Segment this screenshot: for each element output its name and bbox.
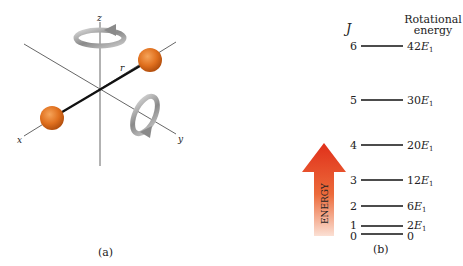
z-axis-label: z: [97, 13, 102, 24]
j-value: 0: [350, 231, 357, 242]
atom-right: [138, 48, 162, 72]
energy-arrow-label: ENERGY: [320, 182, 330, 224]
j-value: 5: [350, 95, 357, 106]
j-value: 6: [350, 41, 357, 52]
bond-length-label: r: [120, 63, 124, 74]
j-value: 3: [350, 175, 357, 186]
energy-value: 0: [407, 231, 414, 246]
x-axis-label: x: [17, 135, 22, 146]
energy-level-lines: [361, 46, 403, 234]
energy-value: 42E1: [407, 41, 434, 56]
energy-value: 30E1: [407, 95, 434, 110]
j-value: 2: [350, 201, 357, 212]
j-header: J: [346, 23, 351, 34]
energy-header: Rotational energy: [403, 14, 463, 36]
caption-a: (a): [98, 247, 113, 258]
y-axis-label: y: [178, 134, 183, 145]
caption-b: (b): [373, 244, 389, 255]
energy-value: 12E1: [407, 175, 434, 190]
diatomic-molecule: [40, 48, 162, 130]
energy-value: 20E1: [407, 140, 434, 155]
j-value: 4: [350, 140, 357, 151]
energy-header-line2: energy: [403, 25, 463, 36]
atom-left: [40, 106, 64, 130]
energy-value: 6E1: [407, 201, 427, 216]
